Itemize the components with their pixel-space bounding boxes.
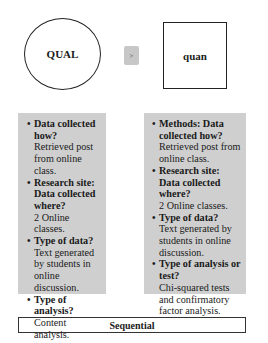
quan-node: quan (163, 22, 227, 89)
question: Research site: Data collected where? (27, 177, 102, 212)
list-item: Type of analysis or test? Chi-squared te… (152, 258, 242, 317)
question: Type of data? (27, 235, 102, 247)
list-item: Research site: Data collected where? 2 O… (152, 165, 242, 212)
question: Research site: Data collected where? (152, 165, 242, 200)
question: Type of analysis? (27, 294, 102, 317)
list-item: Research site: Data collected where? 2 O… (27, 177, 102, 236)
answer: Text generated by students in online dis… (27, 247, 102, 294)
question: Type of data? (152, 212, 242, 224)
design-type-label: Sequential (18, 317, 246, 333)
list-item: Type of data? Text generated by students… (27, 235, 102, 294)
qual-node: QUAL (24, 18, 101, 90)
quan-details-panel: Methods: Data collected how? Retrieved p… (144, 113, 246, 294)
answer: 2 Online classes. (27, 212, 102, 235)
qual-label: QUAL (47, 48, 79, 60)
quan-label: quan (183, 50, 207, 62)
question: Type of analysis or test? (152, 258, 242, 281)
list-item: Data collected how? Retrieved post from … (27, 118, 102, 177)
answer: Text generated by students in online dis… (152, 223, 242, 258)
question: Methods: Data collected how? (152, 118, 242, 141)
answer: Retrieved post from online class. (152, 141, 242, 164)
sequential-label: Sequential (109, 320, 154, 331)
sequence-connector: > (124, 46, 139, 65)
greater-than-icon: > (130, 52, 134, 60)
answer: Retrieved post from online class. (27, 141, 102, 176)
list-item: Type of data? Text generated by students… (152, 212, 242, 259)
list-item: Methods: Data collected how? Retrieved p… (152, 118, 242, 165)
question: Data collected how? (27, 118, 102, 141)
answer: Chi-squared tests and confirmatory facto… (152, 282, 242, 317)
answer: 2 Online classes. (152, 200, 242, 212)
qual-details-panel: Data collected how? Retrieved post from … (18, 113, 106, 294)
